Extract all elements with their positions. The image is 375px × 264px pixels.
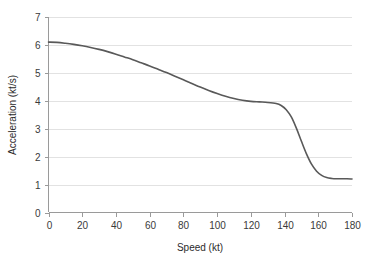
y-tick-label: 3: [35, 124, 41, 135]
y-axis-title: Acceleration (kt/s): [7, 75, 18, 155]
x-axis-title: Speed (kt): [177, 242, 223, 253]
x-tick-label: 100: [209, 220, 226, 231]
y-tick-label: 7: [35, 12, 41, 23]
x-tick-label: 80: [178, 220, 190, 231]
x-tick-label: 20: [77, 220, 89, 231]
y-tick-label: 4: [35, 96, 41, 107]
x-tick-label: 60: [145, 220, 157, 231]
chart-canvas: 01234567 020406080100120140160180 Speed …: [0, 0, 375, 264]
acceleration-vs-speed-chart: 01234567 020406080100120140160180 Speed …: [0, 0, 375, 264]
y-tick-label: 5: [35, 68, 41, 79]
y-tick-label: 6: [35, 40, 41, 51]
y-tick-label: 2: [35, 152, 41, 163]
y-tick-label: 1: [35, 180, 41, 191]
y-tick-label: 0: [35, 208, 41, 219]
x-tick-label: 160: [310, 220, 327, 231]
x-tick-label: 0: [47, 220, 53, 231]
x-tick-label: 40: [111, 220, 123, 231]
x-tick-label: 120: [243, 220, 260, 231]
x-tick-label: 180: [344, 220, 361, 231]
x-tick-label: 140: [277, 220, 294, 231]
